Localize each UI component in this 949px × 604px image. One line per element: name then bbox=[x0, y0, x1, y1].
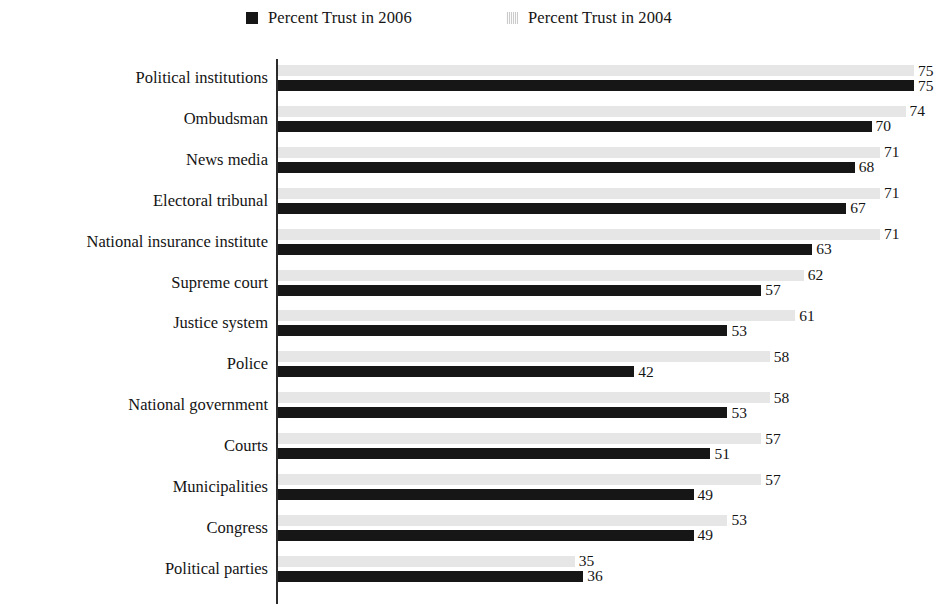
bar-2006 bbox=[278, 530, 694, 541]
legend-label-2006: Percent Trust in 2006 bbox=[268, 8, 412, 28]
bar-track-2006: 42 bbox=[278, 366, 938, 377]
bar-track-2006: 57 bbox=[278, 285, 938, 296]
bar-value-label: 36 bbox=[587, 568, 603, 584]
bar-2006 bbox=[278, 571, 583, 582]
bar-value-label: 68 bbox=[859, 159, 875, 175]
bar-value-label: 49 bbox=[698, 486, 714, 502]
category-label: Courts bbox=[224, 438, 268, 455]
bar-value-label: 74 bbox=[910, 103, 926, 119]
bar-track-2004: 71 bbox=[278, 147, 938, 158]
bar-2004 bbox=[278, 147, 880, 158]
category-label: Political institutions bbox=[136, 70, 268, 87]
legend-swatch-2006 bbox=[246, 12, 258, 24]
bar-value-label: 42 bbox=[638, 364, 654, 380]
bar-track-2006: 53 bbox=[278, 325, 938, 336]
bar-track-2004: 58 bbox=[278, 392, 938, 403]
bar-value-label: 63 bbox=[816, 241, 832, 257]
bar-2004 bbox=[278, 351, 770, 362]
bar-value-label: 71 bbox=[884, 144, 900, 160]
bar-track-2004: 71 bbox=[278, 188, 938, 199]
bar-track-2006: 36 bbox=[278, 571, 938, 582]
category-label: Municipalities bbox=[173, 479, 268, 496]
bar-2006 bbox=[278, 244, 812, 255]
bar-value-label: 58 bbox=[774, 390, 790, 406]
bar-track-2006: 49 bbox=[278, 489, 938, 500]
bar-2004 bbox=[278, 106, 906, 117]
category-label: News media bbox=[186, 152, 268, 169]
bar-2004 bbox=[278, 310, 795, 321]
bar-chart: Percent Trust in 2006Percent Trust in 20… bbox=[0, 0, 949, 604]
bar-track-2004: 62 bbox=[278, 270, 938, 281]
bar-2006 bbox=[278, 325, 727, 336]
bar-value-label: 58 bbox=[774, 349, 790, 365]
bar-track-2006: 67 bbox=[278, 203, 938, 214]
category-label: Political parties bbox=[165, 561, 268, 578]
bar-track-2006: 51 bbox=[278, 448, 938, 459]
bar-value-label: 71 bbox=[884, 226, 900, 242]
bar-track-2006: 63 bbox=[278, 244, 938, 255]
bar-value-label: 49 bbox=[698, 527, 714, 543]
bar-2006 bbox=[278, 121, 872, 132]
bar-2006 bbox=[278, 448, 710, 459]
category-label: Electoral tribunal bbox=[153, 193, 268, 210]
bar-value-label: 53 bbox=[731, 512, 747, 528]
bar-track-2004: 61 bbox=[278, 310, 938, 321]
bar-track-2004: 75 bbox=[278, 65, 938, 76]
bar-2004 bbox=[278, 392, 770, 403]
bar-track-2006: 49 bbox=[278, 530, 938, 541]
category-label: Police bbox=[227, 356, 268, 373]
bar-2004 bbox=[278, 433, 761, 444]
bar-track-2004: 58 bbox=[278, 351, 938, 362]
bar-2006 bbox=[278, 407, 727, 418]
category-label: Congress bbox=[207, 520, 268, 537]
bar-2004 bbox=[278, 474, 761, 485]
bar-2006 bbox=[278, 489, 694, 500]
category-label: National government bbox=[128, 397, 268, 414]
bar-track-2004: 53 bbox=[278, 515, 938, 526]
legend-swatch-2004 bbox=[506, 12, 518, 24]
bar-value-label: 57 bbox=[765, 431, 781, 447]
legend-label-2004: Percent Trust in 2004 bbox=[528, 8, 672, 28]
legend-entry-2006: Percent Trust in 2006 bbox=[246, 6, 412, 30]
bar-2006 bbox=[278, 285, 761, 296]
bar-value-label: 53 bbox=[731, 405, 747, 421]
bar-track-2004: 57 bbox=[278, 474, 938, 485]
category-label: Justice system bbox=[173, 315, 268, 332]
bar-2004 bbox=[278, 188, 880, 199]
bar-track-2006: 68 bbox=[278, 162, 938, 173]
bar-value-label: 71 bbox=[884, 185, 900, 201]
bar-value-label: 57 bbox=[765, 282, 781, 298]
bar-2006 bbox=[278, 162, 855, 173]
bar-track-2006: 75 bbox=[278, 80, 938, 91]
bar-2004 bbox=[278, 556, 575, 567]
bar-value-label: 61 bbox=[799, 308, 815, 324]
bar-value-label: 62 bbox=[808, 267, 824, 283]
bar-track-2006: 53 bbox=[278, 407, 938, 418]
bar-2006 bbox=[278, 80, 914, 91]
bar-2006 bbox=[278, 203, 846, 214]
bar-value-label: 67 bbox=[850, 200, 866, 216]
bar-track-2004: 57 bbox=[278, 433, 938, 444]
legend-entry-2004: Percent Trust in 2004 bbox=[506, 6, 672, 30]
bar-2004 bbox=[278, 229, 880, 240]
category-label: Ombudsman bbox=[184, 111, 268, 128]
bar-2004 bbox=[278, 515, 727, 526]
bar-value-label: 53 bbox=[731, 323, 747, 339]
chart-legend: Percent Trust in 2006Percent Trust in 20… bbox=[0, 0, 949, 38]
bar-track-2004: 71 bbox=[278, 229, 938, 240]
bar-value-label: 57 bbox=[765, 471, 781, 487]
plot-area: Political institutions7575Ombudsman7470N… bbox=[0, 38, 949, 604]
bar-value-label: 75 bbox=[918, 77, 934, 93]
bar-value-label: 70 bbox=[876, 118, 892, 134]
bar-2006 bbox=[278, 366, 634, 377]
bar-2004 bbox=[278, 270, 804, 281]
category-label: Supreme court bbox=[171, 275, 268, 292]
category-label: National insurance institute bbox=[87, 234, 268, 251]
bar-track-2004: 74 bbox=[278, 106, 938, 117]
bar-track-2006: 70 bbox=[278, 121, 938, 132]
bar-2004 bbox=[278, 65, 914, 76]
bar-track-2004: 35 bbox=[278, 556, 938, 567]
bar-value-label: 51 bbox=[714, 446, 730, 462]
